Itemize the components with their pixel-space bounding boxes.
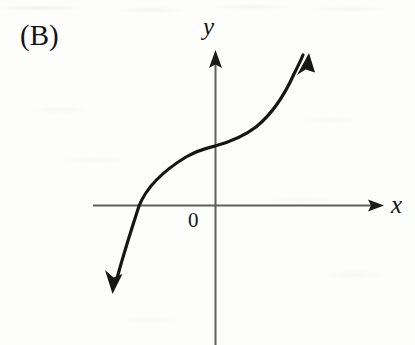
graph-canvas (0, 0, 415, 345)
x-axis-label: x (391, 192, 402, 217)
panel-label: (B) (20, 21, 59, 50)
origin-label: 0 (188, 210, 199, 231)
y-axis-label: y (203, 14, 214, 39)
cubic-curve-path (116, 55, 303, 282)
figure-panel: (B) y x 0 (0, 0, 415, 345)
